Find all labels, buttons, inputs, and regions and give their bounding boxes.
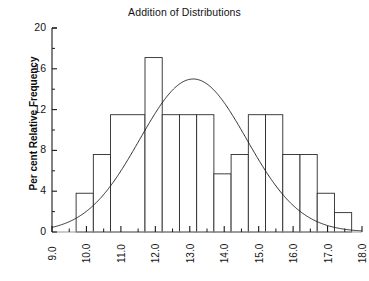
x-tick-label: 16.0 — [288, 237, 299, 271]
y-tick-label: 8 — [22, 143, 46, 155]
histogram-bar — [283, 154, 300, 232]
y-tick-label: 4 — [22, 184, 46, 196]
histogram-bar — [93, 154, 110, 232]
x-tick-label: 17.0 — [322, 237, 333, 271]
y-tick-label: 12 — [22, 103, 46, 115]
y-tick-label: 0 — [22, 225, 46, 237]
histogram-bar — [248, 115, 265, 232]
histogram-bar — [197, 115, 214, 232]
x-tick-label: 11.0 — [115, 237, 126, 271]
y-tick-label: 20 — [22, 21, 46, 33]
x-tick-label: 14.0 — [219, 237, 230, 271]
histogram-bars — [76, 58, 352, 232]
chart-figure: Addition of Distributions Per cent Relat… — [0, 0, 369, 281]
histogram-bar — [266, 115, 283, 232]
x-tick-label: 10.0 — [81, 237, 92, 271]
x-tick-label: 12.0 — [150, 237, 161, 271]
histogram-bar — [162, 115, 179, 232]
histogram-bar — [179, 115, 196, 232]
x-tick-label: 15.0 — [253, 237, 264, 271]
x-tick-label: 18.0 — [357, 237, 368, 271]
x-tick-label: 9.0 — [47, 237, 58, 271]
histogram-bar — [317, 193, 334, 232]
chart-title: Addition of Distributions — [0, 6, 369, 18]
histogram-bar — [214, 174, 231, 232]
histogram-bar — [231, 154, 248, 232]
x-tick-label: 13.0 — [184, 237, 195, 271]
y-tick-label: 16 — [22, 62, 46, 74]
histogram-bar — [145, 58, 162, 232]
histogram-bar — [111, 115, 145, 232]
